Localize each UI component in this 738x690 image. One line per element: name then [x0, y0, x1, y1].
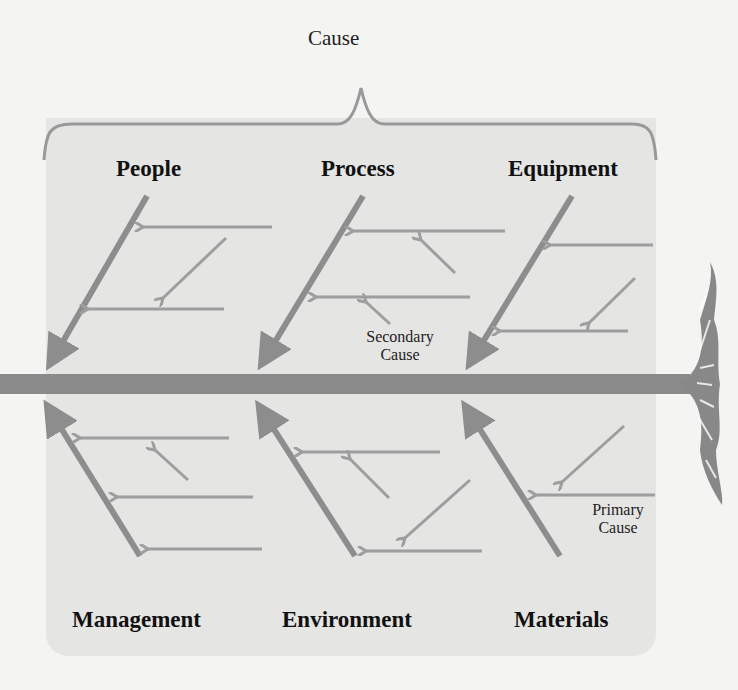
bone-process — [270, 196, 363, 350]
secondary-cause-label: Secondary Cause — [355, 328, 445, 364]
bone-materials — [474, 420, 560, 556]
bone-environment — [268, 420, 355, 556]
category-process: Process — [321, 156, 395, 182]
spine — [0, 374, 690, 394]
bone-management — [56, 420, 140, 556]
category-materials: Materials — [514, 607, 609, 633]
category-management: Management — [72, 607, 201, 633]
category-equipment: Equipment — [508, 156, 618, 182]
bone-equipment — [478, 196, 572, 350]
bone-people — [58, 196, 147, 350]
category-environment: Environment — [282, 607, 412, 633]
primary-cause-label: Primary Cause — [578, 501, 658, 537]
category-people: People — [116, 156, 181, 182]
diagram-title: Cause — [308, 26, 359, 51]
brace-icon — [44, 88, 656, 160]
